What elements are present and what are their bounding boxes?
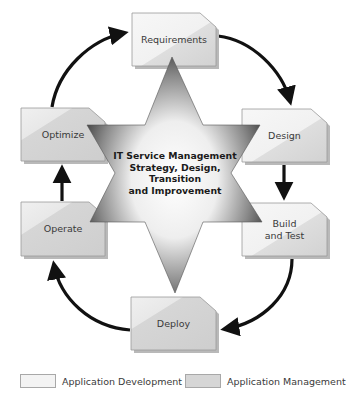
center-title-line: IT Service Management (105, 150, 245, 162)
stage-label-optimize: Optimize (21, 108, 105, 161)
stage-label-text: Operate (44, 223, 83, 235)
stage-label-text: Requirements (141, 34, 207, 46)
center-title-line: Strategy, Design, (105, 162, 245, 174)
stage-label-text: Design (268, 130, 301, 142)
arrow-deploy-to-operate (54, 265, 130, 330)
legend-swatch-development (20, 374, 56, 388)
legend-swatch-management (185, 374, 221, 388)
arrow-build-to-deploy (225, 259, 292, 329)
stage-label-build-and-test: Build and Test (242, 203, 327, 256)
stage-label-requirements: Requirements (132, 13, 216, 66)
stage-label-deploy: Deploy (131, 297, 216, 350)
stage-label-text: and Test (265, 230, 305, 242)
legend-label: Application Management (227, 376, 346, 387)
center-title-line: Transition (105, 173, 245, 185)
legend-label: Application Development (62, 376, 182, 387)
center-title: IT Service Management Strategy, Design, … (105, 150, 245, 196)
stage-label-text: Build (273, 218, 297, 230)
arrow-requirements-to-design (218, 36, 290, 101)
center-title-line: and Improvement (105, 185, 245, 197)
stage-label-text: Deploy (157, 318, 190, 330)
stage-label-design: Design (242, 109, 327, 162)
stage-label-text: Optimize (42, 129, 85, 141)
stage-label-operate: Operate (21, 202, 105, 256)
legend-item-application-management: Application Management (185, 374, 346, 388)
legend-item-application-development: Application Development (20, 374, 182, 388)
arrow-optimize-to-requirements (52, 33, 124, 107)
